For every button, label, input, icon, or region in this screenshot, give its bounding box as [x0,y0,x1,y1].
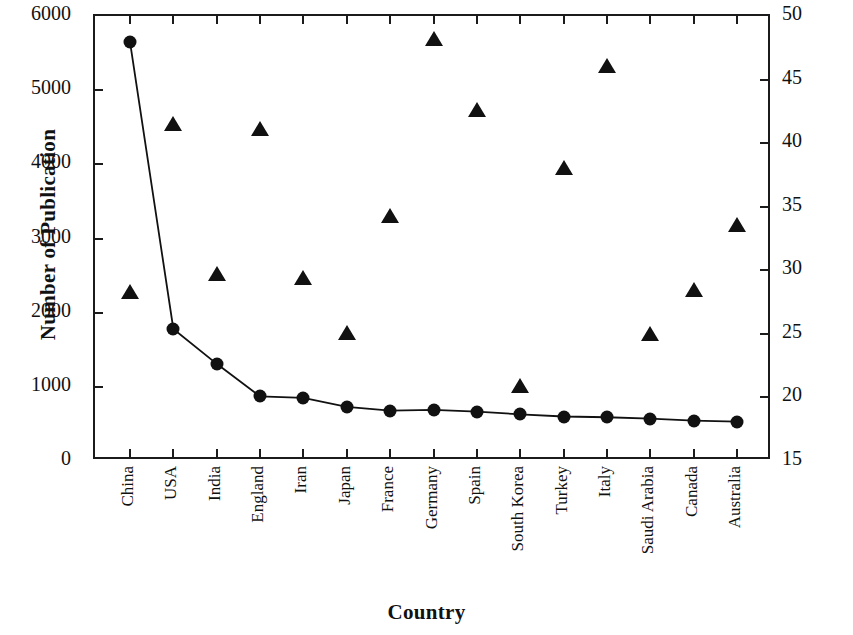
y-axis-left-tick [95,163,103,165]
y-axis-right-label: 40 [782,130,852,150]
x-axis-category-label: South Korea [508,466,528,551]
y-axis-left-label: 6000 [0,3,71,23]
y-axis-left-label: 2000 [0,300,71,320]
citation-data-point [208,266,226,281]
x-axis-tick [346,449,348,457]
publication-data-point [297,391,310,404]
x-axis-category-label: USA [161,466,181,500]
publication-data-point [124,35,137,48]
citation-data-point [641,326,659,341]
x-axis-tick [693,449,695,457]
x-axis-tick [476,449,478,457]
x-axis-tick [216,449,218,457]
x-axis-tick [736,449,738,457]
x-axis-tick-top [389,16,391,24]
y-axis-left-tick [95,89,103,91]
x-axis-tick [433,449,435,457]
x-axis-tick-top [649,16,651,24]
citation-data-point [511,378,529,393]
y-axis-right-tick [760,79,768,81]
y-axis-right-label: 50 [782,3,852,23]
y-axis-right-label: 45 [782,67,852,87]
y-axis-right-tick [760,396,768,398]
y-axis-left-tick [95,386,103,388]
citation-data-point [338,325,356,340]
y-axis-right-label: 25 [782,321,852,341]
x-axis-tick-top [216,16,218,24]
x-axis-category-label: Germany [422,466,442,529]
x-axis-category-label: Italy [595,466,615,497]
citation-data-point [555,160,573,175]
x-axis-tick [563,449,565,457]
x-axis-tick-top [693,16,695,24]
y-axis-right-tick [760,333,768,335]
x-axis-tick-top [259,16,261,24]
x-axis-tick [519,449,521,457]
x-axis-tick-top [172,16,174,24]
x-axis-category-label: Iran [291,466,311,493]
x-axis-title: Country [0,600,853,625]
y-axis-right-tick [760,206,768,208]
y-axis-left-label: 0 [0,448,71,468]
y-axis-right-label: 35 [782,194,852,214]
y-axis-left-tick [95,238,103,240]
x-axis-category-label: India [205,466,225,501]
x-axis-tick [649,449,651,457]
y-axis-right-label: 30 [782,257,852,277]
publication-data-point [731,415,744,428]
publication-data-point [470,405,483,418]
x-axis-tick [172,449,174,457]
x-axis-category-label: England [248,466,268,523]
x-axis-category-label: France [378,466,398,512]
y-axis-right-label: 20 [782,384,852,404]
y-axis-right-label: 15 [782,448,852,468]
citation-data-point [164,116,182,131]
x-axis-category-label: Turkey [552,466,572,515]
y-axis-right-tick [760,142,768,144]
publication-data-point [514,408,527,421]
x-axis-tick [302,449,304,457]
y-axis-left-label: 1000 [0,374,71,394]
publication-data-point [600,411,613,424]
chart-root: Number of Publication Average Citation p… [0,0,853,635]
y-axis-left-label: 5000 [0,77,71,97]
citation-data-point [468,102,486,117]
x-axis-tick-top [519,16,521,24]
x-axis-tick-top [302,16,304,24]
publication-data-point [254,390,267,403]
citation-data-point [425,31,443,46]
x-axis-tick-top [346,16,348,24]
x-axis-tick [129,449,131,457]
publication-data-point [340,400,353,413]
citation-data-point [685,282,703,297]
x-axis-tick-top [476,16,478,24]
publication-data-point [427,403,440,416]
publication-data-point [167,322,180,335]
x-axis-tick [606,449,608,457]
publication-data-point [644,412,657,425]
x-axis-tick-top [736,16,738,24]
citation-data-point [381,208,399,223]
publication-data-point [384,404,397,417]
x-axis-tick [259,449,261,457]
x-axis-tick [389,449,391,457]
x-axis-category-label: Canada [682,466,702,517]
y-axis-left-label: 3000 [0,226,71,246]
citation-data-point [294,270,312,285]
y-axis-left-tick [95,312,103,314]
publication-data-point [210,357,223,370]
x-axis-tick-top [563,16,565,24]
y-axis-right-tick [760,269,768,271]
publication-data-point [557,410,570,423]
citation-data-point [598,58,616,73]
x-axis-category-label: China [118,466,138,507]
publication-data-point [687,414,700,427]
y-axis-left-label: 4000 [0,151,71,171]
publication-line-path [95,16,772,461]
x-axis-category-label: Spain [465,466,485,505]
x-axis-tick-top [606,16,608,24]
x-axis-tick-top [433,16,435,24]
x-axis-category-label: Saudi Arabia [638,466,658,554]
citation-data-point [728,217,746,232]
citation-data-point [251,121,269,136]
